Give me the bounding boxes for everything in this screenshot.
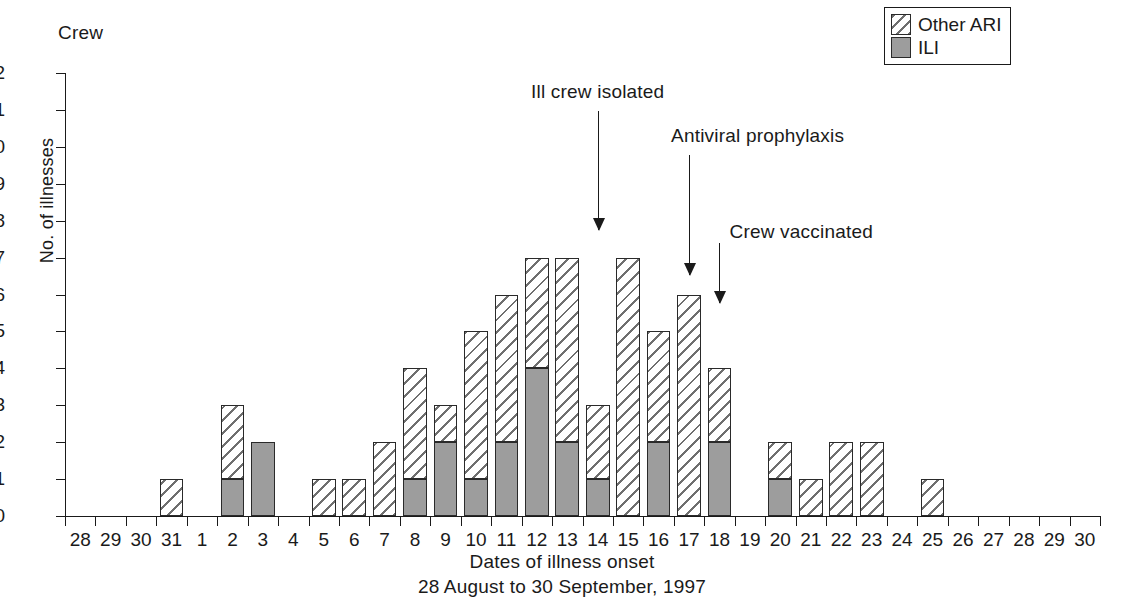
x-axis-tick [583, 516, 584, 526]
bar-segment-other-ari [860, 442, 884, 516]
x-axis-tick-label: 31 [156, 530, 186, 549]
x-axis-tick-label: 28 [65, 530, 95, 549]
y-axis-tick [56, 221, 65, 222]
y-axis-tick [56, 331, 65, 332]
legend: Other ARI ILI [884, 7, 1011, 65]
y-axis-tick-label: 11 [0, 100, 5, 119]
bar-16 [647, 331, 671, 516]
x-axis-tick-label: 19 [735, 530, 765, 549]
y-axis-tick-label: 1 [0, 469, 5, 488]
y-axis-tick-label: 7 [0, 248, 5, 267]
x-axis-tick [704, 516, 705, 526]
x-axis-tick-label: 22 [826, 530, 856, 549]
bar-23 [860, 442, 884, 516]
bar-11 [495, 295, 519, 517]
x-axis-tick-label: 30 [126, 530, 156, 549]
y-axis-tick-label: 6 [0, 285, 5, 304]
y-axis-tick-label: 3 [0, 395, 5, 414]
annotation-label: Antiviral prophylaxis [671, 125, 844, 147]
bar-12 [525, 258, 549, 516]
x-axis-tick [248, 516, 249, 526]
y-axis-tick [56, 442, 65, 443]
bar-3 [251, 442, 275, 516]
x-axis-tick [1070, 516, 1071, 526]
x-axis-tick [65, 516, 66, 526]
bar-8 [403, 368, 427, 516]
x-axis-tick-label: 7 [369, 530, 399, 549]
bar-20 [768, 442, 792, 516]
x-axis-tick [917, 516, 918, 526]
x-axis-tick [856, 516, 857, 526]
bar-segment-other-ari [403, 368, 427, 479]
bar-7 [373, 442, 397, 516]
x-axis-tick [187, 516, 188, 526]
bar-segment-other-ari [312, 479, 336, 516]
x-axis-tick [1100, 516, 1101, 526]
x-axis-tick-label: 8 [400, 530, 430, 549]
x-axis-tick [400, 516, 401, 526]
legend-item-other-ari: Other ARI [891, 13, 1001, 36]
y-axis-tick [56, 295, 65, 296]
x-axis-tick-label: 20 [765, 530, 795, 549]
bar-segment-other-ari [373, 442, 397, 516]
x-axis-tick [95, 516, 96, 526]
x-axis-tick-label: 3 [248, 530, 278, 549]
bar-segment-ili [768, 479, 792, 516]
x-axis-caption-line1: Dates of illness onset [0, 551, 1124, 573]
y-axis-tick [56, 405, 65, 406]
bar-segment-other-ari [799, 479, 823, 516]
epidemic-curve-chart: Crew No. of illnesses 012345678910111228… [0, 0, 1124, 608]
x-axis-tick [126, 516, 127, 526]
x-axis-tick-label: 2 [217, 530, 247, 549]
x-axis-tick [552, 516, 553, 526]
bar-segment-other-ari [342, 479, 366, 516]
x-axis-tick [643, 516, 644, 526]
x-axis-tick-label: 28 [1009, 530, 1039, 549]
y-axis-label: No. of illnesses [37, 106, 58, 296]
x-axis-tick-label: 27 [978, 530, 1008, 549]
x-axis-tick [613, 516, 614, 526]
bar-18 [708, 368, 732, 516]
x-axis-tick-label: 29 [95, 530, 125, 549]
annotation-label: Crew vaccinated [729, 221, 872, 243]
y-axis-tick-label: 10 [0, 137, 5, 156]
y-axis-tick-label: 8 [0, 211, 5, 230]
bar-17 [677, 295, 701, 517]
y-axis-tick [56, 258, 65, 259]
x-axis-tick-label: 1 [187, 530, 217, 549]
x-axis-tick-label: 9 [430, 530, 460, 549]
x-axis-tick [765, 516, 766, 526]
y-axis-tick-label: 5 [0, 321, 5, 340]
x-axis-tick [522, 516, 523, 526]
bar-segment-ili [525, 368, 549, 516]
x-axis-tick-label: 13 [552, 530, 582, 549]
y-axis-tick [56, 110, 65, 111]
x-axis-tick [491, 516, 492, 526]
panel-title: Crew [58, 22, 103, 44]
bar-segment-other-ari [616, 258, 640, 516]
annotation-arrow-icon [598, 111, 599, 230]
x-axis-tick [217, 516, 218, 526]
bar-segment-other-ari [221, 405, 245, 479]
bar-segment-ili [251, 442, 275, 516]
legend-swatch-ili-icon [891, 37, 911, 58]
x-axis-tick-label: 6 [339, 530, 369, 549]
bar-segment-other-ari [160, 479, 184, 516]
x-axis-tick [430, 516, 431, 526]
x-axis-tick [735, 516, 736, 526]
x-axis-caption-line2: 28 August to 30 September, 1997 [0, 576, 1124, 598]
y-axis-tick [56, 368, 65, 369]
legend-label-other-ari: Other ARI [918, 15, 1001, 34]
x-axis-tick-label: 11 [491, 530, 521, 549]
bar-segment-other-ari [495, 295, 519, 443]
x-axis-tick-label: 15 [613, 530, 643, 549]
legend-item-ili: ILI [891, 36, 1001, 59]
annotation-arrow-icon [689, 155, 690, 275]
x-axis-tick [369, 516, 370, 526]
x-axis-tick [887, 516, 888, 526]
bar-segment-other-ari [768, 442, 792, 479]
x-axis-tick [1039, 516, 1040, 526]
y-axis-tick [56, 516, 65, 517]
y-axis-tick [56, 147, 65, 148]
x-axis-tick [978, 516, 979, 526]
